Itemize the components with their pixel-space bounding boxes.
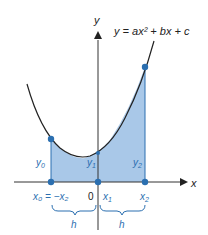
x1-label: x1 <box>102 191 112 203</box>
x-axis-label: x <box>190 177 197 189</box>
right-brace <box>100 205 145 215</box>
y-axis-arrow <box>94 31 102 39</box>
x-axis-arrow <box>180 178 188 186</box>
y0-label: y0 <box>35 157 45 169</box>
left-brace <box>52 205 96 215</box>
point-x2 <box>142 179 148 185</box>
point-x1 <box>95 179 101 185</box>
point-x0 <box>48 179 54 185</box>
y-axis-label: y <box>93 14 101 26</box>
x0-label: x₀ = −x₂ <box>32 191 68 202</box>
origin-label: 0 <box>88 191 94 202</box>
parabola-area-diagram: y x y = ax² + bx + c y0 y1 y2 x₀ = −x₂ 0… <box>0 0 208 235</box>
equation-label: y = ax² + bx + c <box>113 25 190 37</box>
point-y0 <box>48 136 54 142</box>
right-width-label: h <box>119 219 125 230</box>
x2-label: x2 <box>139 191 149 203</box>
point-y1 <box>96 151 100 155</box>
point-y2 <box>142 64 148 70</box>
left-width-label: h <box>71 219 77 230</box>
